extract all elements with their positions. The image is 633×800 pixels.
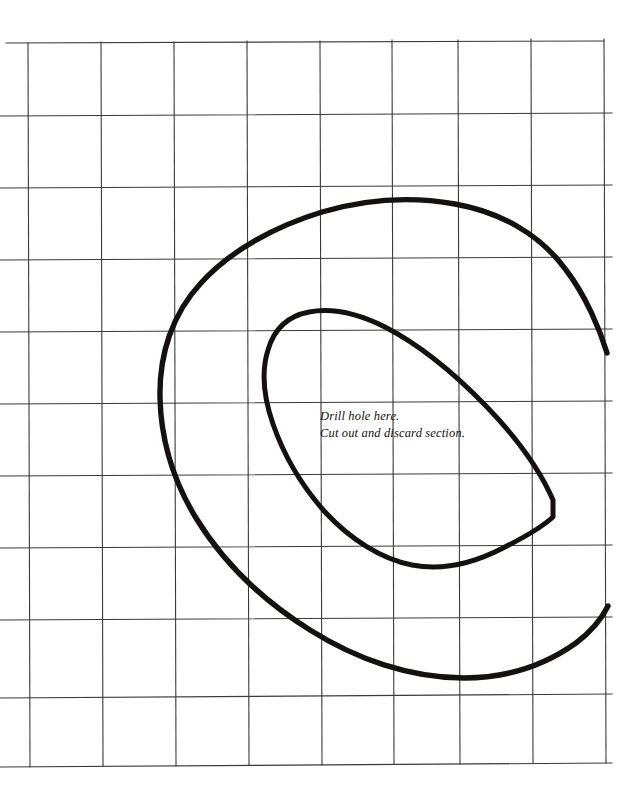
pattern-drawing [0, 0, 633, 800]
page-background [0, 0, 633, 800]
pattern-page: Drill hole here. Cut out and discard sec… [0, 0, 633, 800]
